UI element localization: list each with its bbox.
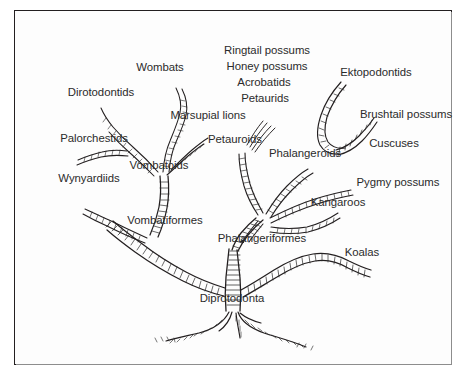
label-kangaroos: Kangaroos (311, 196, 366, 208)
label-petaurids: Petaurids (241, 92, 289, 104)
branch-koalas (241, 253, 371, 297)
branch-petauroids-stem (239, 153, 263, 215)
label-dirotodontids: Dirotodontids (68, 86, 134, 98)
label-cuscuses: Cuscuses (369, 137, 419, 149)
label-phalangeroids: Phalangeroids (269, 147, 341, 159)
label-wombats: Wombats (136, 61, 184, 73)
label-marsupial-lions: Marsupial lions (170, 109, 245, 121)
branch-phalangeroids (266, 169, 313, 217)
figure-container: Wombats Dirotodontids Palorchestids Mars… (0, 0, 466, 377)
label-acrobatids: Acrobatids (237, 76, 290, 88)
label-phalangeriformes: Phalangeriformes (218, 232, 306, 244)
label-diprotodonta: Diprotodonta (200, 292, 265, 304)
tree-drawing (0, 0, 466, 377)
branch-vombatiformes (107, 221, 225, 296)
label-vombatiformes: Vombatiformes (127, 214, 202, 226)
root-hatching (155, 316, 313, 350)
label-ektopodontids: Ektopodontids (340, 66, 412, 78)
label-honey-possums: Honey possums (226, 60, 307, 72)
label-vombatoids: Vombatoids (129, 159, 188, 171)
branch-kangaroos (270, 213, 340, 234)
label-palorchestids: Palorchestids (60, 132, 128, 144)
label-brushtail-possums: Brushtail possums (360, 108, 452, 120)
label-petauroids: Petauroids (208, 133, 262, 145)
branch-ektopodontids-hatching (319, 88, 372, 153)
label-wynyardiids: Wynyardiids (58, 172, 119, 184)
label-pygmy-possums: Pygmy possums (357, 176, 440, 188)
label-koalas: Koalas (345, 246, 380, 258)
label-ringtail-possums: Ringtail possums (224, 44, 310, 56)
